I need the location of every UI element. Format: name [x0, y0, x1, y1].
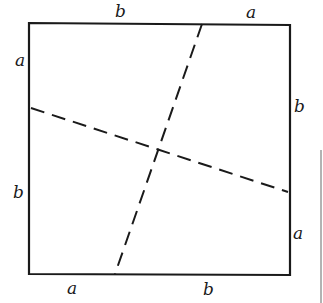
label-top-left: b — [115, 1, 126, 21]
label-top-right: a — [246, 2, 256, 22]
label-bottom-right: b — [203, 279, 214, 299]
label-right-top: b — [294, 96, 305, 116]
square-dissection-diagram: b a a b b a a b — [0, 0, 323, 303]
label-right-bottom: a — [293, 223, 303, 243]
label-left-top: a — [15, 50, 25, 70]
dashed-line-shallow — [31, 108, 288, 192]
label-bottom-left: a — [67, 278, 77, 298]
label-left-bottom: b — [13, 182, 24, 202]
